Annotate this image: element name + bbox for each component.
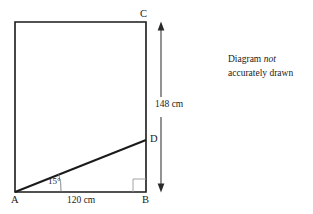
note-line-1: Diagram not bbox=[228, 53, 293, 67]
vertex-label-b: B bbox=[142, 195, 149, 206]
note-text-emphasis: not bbox=[264, 54, 276, 64]
vertex-label-d: D bbox=[150, 134, 158, 145]
geometry-diagram: C D A B 148 cm 120 cm 15° Diagram not ac… bbox=[0, 0, 313, 214]
not-accurately-drawn-note: Diagram not accurately drawn bbox=[228, 53, 293, 81]
note-line-2: accurately drawn bbox=[228, 67, 293, 81]
vertex-label-c: C bbox=[140, 9, 147, 20]
arrowhead-top bbox=[158, 22, 165, 31]
right-angle-marker-at-B bbox=[133, 179, 146, 192]
vertex-label-a: A bbox=[11, 195, 19, 206]
note-text-prefix: Diagram bbox=[228, 54, 264, 64]
dimension-label-vertical: 148 cm bbox=[155, 100, 183, 110]
line-segment-AD bbox=[15, 140, 146, 192]
arrowhead-bottom bbox=[158, 184, 165, 193]
angle-label-15-degrees: 15° bbox=[48, 177, 61, 186]
dimension-label-horizontal: 120 cm bbox=[67, 196, 95, 206]
